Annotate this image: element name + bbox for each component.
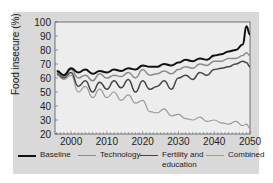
x-tick-label: 2000 bbox=[60, 136, 83, 147]
y-tick-label: 20 bbox=[40, 129, 52, 140]
x-tick-label: 2020 bbox=[132, 136, 155, 147]
legend-item-fertility-education: Fertility andeducation bbox=[140, 150, 203, 170]
y-tick-label: 30 bbox=[40, 115, 52, 126]
legend-item-technology: Technology bbox=[78, 150, 140, 160]
y-tick-label: 90 bbox=[40, 31, 52, 42]
y-tick-label: 50 bbox=[40, 87, 52, 98]
y-tick-label: 60 bbox=[40, 73, 52, 84]
y-tick-label: 70 bbox=[40, 59, 52, 70]
legend-swatch bbox=[18, 155, 36, 157]
x-tick-label: 2010 bbox=[96, 136, 119, 147]
legend-label-fertility: Fertility andeducation bbox=[162, 150, 203, 170]
y-tick-label: 80 bbox=[40, 45, 52, 56]
x-tick-label: 2040 bbox=[203, 136, 226, 147]
x-tick-label: 2050 bbox=[239, 136, 262, 147]
x-tick-label: 2030 bbox=[167, 136, 190, 147]
y-tick-label: 100 bbox=[34, 17, 51, 28]
y-axis: 2030405060708090100 bbox=[34, 17, 58, 140]
legend-item-baseline: Baseline bbox=[18, 150, 71, 160]
plot-area bbox=[55, 22, 250, 134]
legend-swatch bbox=[78, 155, 96, 156]
y-tick-label: 40 bbox=[40, 101, 52, 112]
legend-swatch bbox=[206, 155, 224, 156]
legend-item-combined: Combined bbox=[206, 150, 264, 160]
legend-swatch bbox=[140, 155, 158, 156]
y-axis-title: Food insecure (%) bbox=[10, 13, 21, 95]
